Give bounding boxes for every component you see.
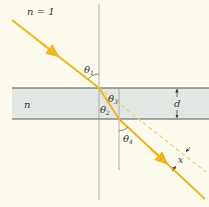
refraction-slab-diagram: n = 1 n θ1 θ3 θ2 θ4 d x [0, 0, 209, 207]
outer-medium-label: n = 1 [27, 6, 55, 17]
theta4-arc [119, 127, 128, 131]
displacement-label: x [178, 155, 183, 165]
displacement-arrow-upper [186, 147, 190, 152]
theta4-label: θ4 [123, 133, 133, 145]
slab-index-label: n [24, 99, 30, 110]
diagram-svg: n = 1 n θ1 θ3 θ2 θ4 d x [0, 0, 209, 207]
emergent-ray-arrow [150, 148, 164, 161]
incident-ray-arrow [40, 42, 55, 54]
theta1-label: θ1 [84, 64, 94, 76]
incident-ray [12, 20, 99, 88]
thickness-label: d [174, 98, 180, 109]
